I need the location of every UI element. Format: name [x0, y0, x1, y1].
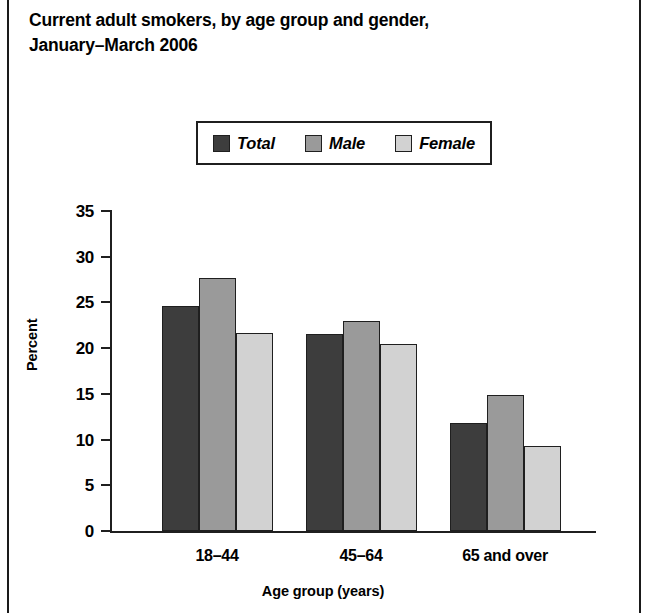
x-axis-tick-label: 18–44	[196, 547, 239, 565]
y-axis-tick	[101, 530, 110, 532]
y-axis-tick-label: 0	[52, 523, 94, 540]
bar-male-2	[343, 321, 380, 531]
plot-area: 05101520253035	[110, 211, 596, 531]
y-axis-tick	[101, 393, 110, 395]
legend-item-male: Male	[305, 134, 365, 153]
x-axis-label: Age group (years)	[0, 583, 646, 599]
chart-legend: TotalMaleFemale	[196, 121, 492, 165]
y-axis-tick-label: 10	[52, 431, 94, 448]
y-axis-tick	[101, 439, 110, 441]
y-axis-label: Percent	[24, 319, 40, 372]
y-axis-tick-label: 20	[52, 340, 94, 357]
bar-total-1	[162, 306, 199, 531]
legend-swatch-icon	[395, 135, 412, 152]
y-axis-tick	[101, 484, 110, 486]
legend-item-label: Total	[237, 134, 275, 153]
y-axis-tick-label: 35	[52, 203, 94, 220]
bar-group-1	[162, 211, 273, 531]
bar-group-2	[306, 211, 417, 531]
y-axis-line	[110, 210, 112, 532]
legend-item-female: Female	[395, 134, 475, 153]
bar-female-2	[380, 344, 417, 531]
page-rule-right	[639, 0, 641, 613]
y-axis-tick-label: 25	[52, 294, 94, 311]
chart-title: Current adult smokers, by age group and …	[29, 8, 589, 58]
chart-title-line-1: Current adult smokers, by age group and …	[29, 8, 589, 33]
y-axis-tick	[101, 256, 110, 258]
y-axis-tick-label: 5	[52, 477, 94, 494]
figure-panel: Current adult smokers, by age group and …	[0, 0, 646, 613]
x-axis-line	[110, 531, 596, 533]
y-axis-tick-label: 30	[52, 248, 94, 265]
y-axis-tick	[101, 210, 110, 212]
y-axis-tick-label: 15	[52, 385, 94, 402]
chart-title-line-2: January–March 2006	[29, 33, 589, 58]
bar-female-1	[236, 333, 273, 531]
legend-item-total: Total	[213, 134, 275, 153]
legend-item-label: Female	[419, 134, 475, 153]
bar-female-3	[524, 446, 561, 531]
x-axis-tick-label: 45–64	[340, 547, 383, 565]
bar-male-3	[487, 395, 524, 531]
y-axis-tick	[101, 301, 110, 303]
legend-swatch-icon	[305, 135, 322, 152]
legend-item-label: Male	[329, 134, 365, 153]
bar-total-2	[306, 334, 343, 531]
bar-total-3	[450, 423, 487, 531]
page-rule-left	[7, 0, 9, 613]
bar-group-3	[450, 211, 561, 531]
x-axis-tick-label: 65 and over	[462, 547, 548, 565]
y-axis-tick	[101, 347, 110, 349]
bar-male-1	[199, 278, 236, 531]
legend-swatch-icon	[213, 135, 230, 152]
